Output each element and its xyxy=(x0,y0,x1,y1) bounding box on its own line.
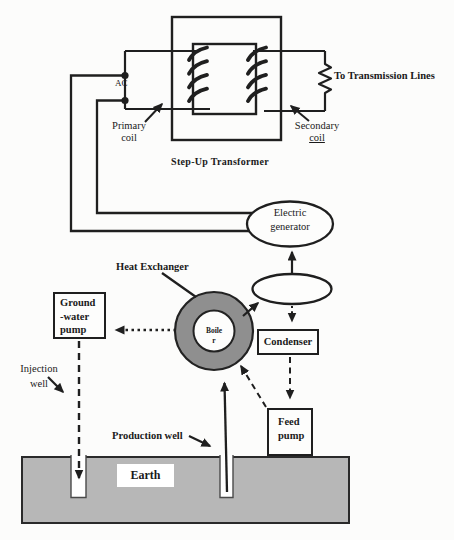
geothermal-power-plant-diagram: AC Primarycoil Secondarycoil To Transmis… xyxy=(0,0,454,540)
ground-water-pump-line2: -water xyxy=(60,311,89,322)
boiler-label: Boiler xyxy=(193,326,235,345)
boiler-label-line1: Boile xyxy=(206,326,222,335)
heat-exchanger-pointer-line xyxy=(162,273,196,297)
electric-generator-label-line1: Electric xyxy=(274,207,307,218)
primary-coil-label-line2: coil xyxy=(121,132,137,143)
electric-generator-label: Electricgenerator xyxy=(247,206,333,233)
boiler-label-line2: r xyxy=(212,336,215,345)
secondary-coil-pointer-arrow xyxy=(291,106,309,121)
injection-well-label: Injectionwell xyxy=(8,361,70,391)
ground-water-pump-line3: pump xyxy=(60,324,86,335)
feed-pump-label: Feedpump xyxy=(278,415,311,443)
feed-pump-line1: Feed xyxy=(278,416,300,427)
ground-water-pump-line1: Ground xyxy=(60,297,95,308)
earth-label: Earth xyxy=(117,464,174,487)
electric-generator-label-line2: generator xyxy=(270,221,310,232)
heat-exchanger-label: Heat Exchanger xyxy=(116,261,189,273)
turbine-ellipse xyxy=(253,274,332,304)
production-well-label: Production well xyxy=(112,430,183,442)
secondary-coil-label-line2: coil xyxy=(309,132,325,143)
transmission-lines-label: To Transmission Lines xyxy=(334,70,435,82)
transmission-load-resistor xyxy=(319,51,331,111)
earth-label-plate: Earth xyxy=(117,464,174,487)
ground-water-pump-label: Ground-waterpump xyxy=(60,296,104,337)
feed-pump-to-boiler-arrow xyxy=(241,366,266,407)
ac-label: AC xyxy=(115,78,128,89)
secondary-coil-label: Secondarycoil xyxy=(287,120,347,145)
primary-coil-label-line1: Primary xyxy=(112,120,146,131)
feed-pump-box: Feedpump xyxy=(267,408,313,456)
transformer-core xyxy=(193,44,256,114)
condenser-box: Condenser xyxy=(257,329,319,355)
injection-well-label-line1: Injection xyxy=(20,363,57,374)
primary-coil-label: Primarycoil xyxy=(107,120,151,145)
production-well-pointer-arrow xyxy=(189,436,210,446)
feed-pump-line2: pump xyxy=(278,430,304,441)
condenser-label: Condenser xyxy=(259,331,317,352)
ground-water-pump-box: Ground-waterpump xyxy=(53,292,106,339)
secondary-coil-label-line1: Secondary xyxy=(295,120,339,131)
transformer-title: Step-Up Transformer xyxy=(160,156,280,168)
injection-well-label-line2: well xyxy=(30,378,48,389)
